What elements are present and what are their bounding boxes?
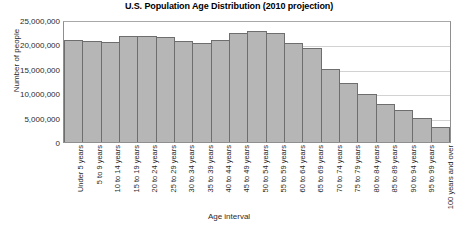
x-axis-tick: 85 to 89 years	[377, 144, 395, 206]
bar	[412, 118, 431, 142]
x-axis-tick: Under 5 years	[63, 144, 81, 206]
x-axis-tick: 65 to 69 years	[303, 144, 321, 206]
x-axis-tick-labels: Under 5 years5 to 9 years10 to 14 years1…	[63, 144, 451, 206]
bar	[137, 36, 156, 142]
bar	[119, 36, 138, 142]
bar	[101, 42, 120, 142]
x-axis-tick: 50 to 54 years	[248, 144, 266, 206]
bar	[302, 48, 321, 142]
x-axis-tick: 75 to 79 years	[340, 144, 358, 206]
bar	[211, 40, 230, 142]
bar	[376, 104, 395, 142]
x-axis-tick: 15 to 19 years	[118, 144, 136, 206]
bar-series	[64, 22, 450, 142]
y-axis-tick-label: 25,000,000	[2, 17, 60, 26]
x-axis-tick: 95 to 99 years	[414, 144, 432, 206]
x-axis-title: Age interval	[0, 212, 458, 221]
plot-area	[63, 21, 451, 143]
x-axis-tick: 80 to 84 years	[359, 144, 377, 206]
bar	[266, 33, 285, 142]
x-axis-tick-label: 100 years and over	[446, 145, 455, 209]
y-axis-tick-label: 5,000,000	[2, 114, 60, 123]
bar	[192, 43, 211, 142]
bar	[394, 110, 413, 142]
bar	[64, 40, 83, 142]
x-axis-tick: 35 to 39 years	[192, 144, 210, 206]
population-age-distribution-chart: U.S. Population Age Distribution (2010 p…	[0, 0, 458, 230]
x-axis-tick: 25 to 29 years	[155, 144, 173, 206]
x-axis-tick: 40 to 44 years	[211, 144, 229, 206]
bar	[357, 94, 376, 142]
bar	[82, 41, 101, 143]
x-axis-tick: 100 years and over	[432, 144, 450, 206]
y-axis-tick-label: 0	[2, 139, 60, 148]
y-axis-tick-label: 10,000,000	[2, 90, 60, 99]
y-axis-tick-label: 15,000,000	[2, 65, 60, 74]
bar	[229, 33, 248, 142]
bar	[156, 37, 175, 142]
x-axis-tick: 90 to 94 years	[395, 144, 413, 206]
bar	[284, 43, 303, 142]
chart-title: U.S. Population Age Distribution (2010 p…	[0, 1, 458, 11]
bar	[247, 31, 266, 142]
x-axis-tick: 10 to 14 years	[100, 144, 118, 206]
y-axis-tick-labels: 25,000,00020,000,00015,000,00010,000,000…	[0, 21, 60, 143]
bar	[321, 69, 340, 142]
x-axis-tick: 20 to 24 years	[137, 144, 155, 206]
bar	[431, 127, 450, 142]
x-axis-tick: 60 to 64 years	[285, 144, 303, 206]
x-axis-tick: 5 to 9 years	[81, 144, 99, 206]
x-axis-tick: 55 to 59 years	[266, 144, 284, 206]
bar	[339, 83, 358, 142]
bar	[174, 41, 193, 142]
y-axis-tick-label: 20,000,000	[2, 41, 60, 50]
x-axis-tick: 45 to 49 years	[229, 144, 247, 206]
x-axis-tick: 70 to 74 years	[322, 144, 340, 206]
x-axis-tick: 30 to 34 years	[174, 144, 192, 206]
